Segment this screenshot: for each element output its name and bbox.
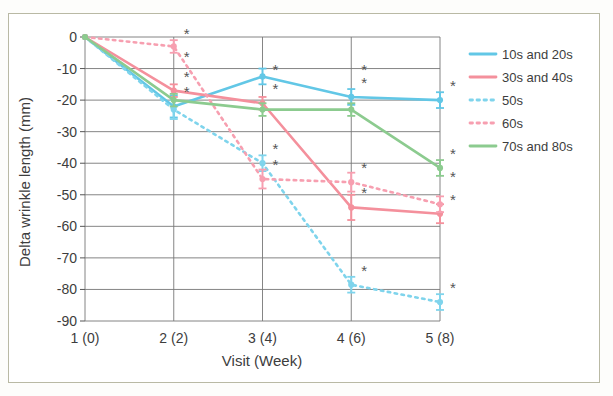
data-point xyxy=(437,97,443,103)
data-point xyxy=(348,106,354,112)
x-tick-label: 5 (8) xyxy=(426,330,455,346)
significance-marker: * xyxy=(450,191,456,208)
legend-label: 30s and 40s xyxy=(502,70,573,85)
significance-marker: * xyxy=(184,83,190,100)
series-lines xyxy=(82,34,444,310)
data-point xyxy=(82,34,88,40)
data-point xyxy=(259,73,265,79)
significance-marker: * xyxy=(273,80,279,97)
line-chart: 0-10-20-30-40-50-60-70-80-90 1 (0)2 (2)3… xyxy=(0,0,613,396)
significance-marker: * xyxy=(361,262,367,279)
x-tick-label: 3 (4) xyxy=(248,330,277,346)
significance-marker: * xyxy=(450,77,456,94)
y-tick-label: -10 xyxy=(57,61,77,77)
significance-marker: * xyxy=(184,25,190,42)
data-point xyxy=(348,204,354,210)
y-tick-label: -40 xyxy=(57,155,77,171)
data-point xyxy=(171,97,177,103)
significance-marker: * xyxy=(273,140,279,157)
y-tick-label: -70 xyxy=(57,250,77,266)
legend-label: 50s xyxy=(502,93,523,108)
x-tick-label: 2 (2) xyxy=(159,330,188,346)
significance-marker: * xyxy=(361,61,367,78)
x-axis-label: Visit (Week) xyxy=(222,352,302,369)
chart-container: 0-10-20-30-40-50-60-70-80-90 1 (0)2 (2)3… xyxy=(0,0,613,396)
significance-marker: * xyxy=(184,68,190,85)
y-tick-label: -30 xyxy=(57,124,77,140)
x-axis-ticks: 1 (0)2 (2)3 (4)4 (6)5 (8) xyxy=(71,330,455,346)
significance-marker: * xyxy=(361,159,367,176)
significance-markers: ****************** xyxy=(184,25,456,296)
data-point xyxy=(437,165,443,171)
y-tick-label: -80 xyxy=(57,281,77,297)
y-axis-label: Delta wrinkle length (mm) xyxy=(16,97,33,267)
significance-marker: * xyxy=(450,168,456,185)
data-point xyxy=(171,43,177,49)
significance-marker: * xyxy=(273,156,279,173)
data-point xyxy=(171,88,177,94)
data-point xyxy=(259,106,265,112)
data-point xyxy=(348,282,354,288)
significance-marker: * xyxy=(450,145,456,162)
data-point xyxy=(348,94,354,100)
y-tick-label: -20 xyxy=(57,92,77,108)
data-point xyxy=(437,299,443,305)
legend-label: 10s and 20s xyxy=(502,47,573,62)
legend-label: 70s and 80s xyxy=(502,139,573,154)
legend: 10s and 20s30s and 40s50s60s70s and 80s xyxy=(470,47,573,154)
y-tick-label: -60 xyxy=(57,218,77,234)
legend-label: 60s xyxy=(502,116,523,131)
data-point xyxy=(171,106,177,112)
data-point xyxy=(259,160,265,166)
y-tick-label: -90 xyxy=(57,313,77,329)
significance-marker: * xyxy=(273,61,279,78)
y-tick-label: -50 xyxy=(57,187,77,203)
significance-marker: * xyxy=(450,279,456,296)
y-tick-label: 0 xyxy=(69,29,77,45)
data-point xyxy=(348,179,354,185)
significance-marker: * xyxy=(184,48,190,65)
x-tick-label: 1 (0) xyxy=(71,330,100,346)
data-point xyxy=(437,201,443,207)
significance-marker: * xyxy=(361,184,367,201)
y-axis-ticks: 0-10-20-30-40-50-60-70-80-90 xyxy=(57,29,85,329)
x-tick-label: 4 (6) xyxy=(337,330,366,346)
data-point xyxy=(259,176,265,182)
